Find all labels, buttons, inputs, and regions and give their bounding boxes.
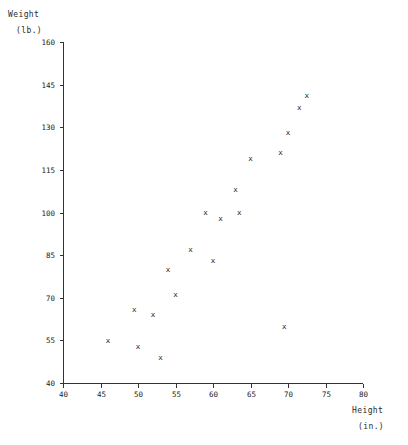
data-point-marker: x bbox=[165, 266, 172, 273]
data-point-marker: x bbox=[187, 246, 194, 253]
data-point-marker: x bbox=[285, 129, 292, 136]
axis-lines bbox=[64, 42, 364, 384]
y-tick-label: 130 bbox=[31, 123, 55, 132]
data-point-marker: x bbox=[131, 306, 138, 313]
data-point-marker: x bbox=[150, 311, 157, 318]
data-point-marker: x bbox=[202, 209, 209, 216]
data-point-marker: x bbox=[232, 186, 239, 193]
y-tick-label: 70 bbox=[31, 294, 55, 303]
y-tick-label: 160 bbox=[31, 38, 55, 47]
x-tick-label: 65 bbox=[242, 390, 262, 399]
y-tick-label: 55 bbox=[31, 336, 55, 345]
data-point-marker: x bbox=[247, 155, 254, 162]
x-tick-label: 40 bbox=[54, 390, 74, 399]
data-point-marker: x bbox=[303, 92, 310, 99]
data-point-marker: x bbox=[281, 323, 288, 330]
data-point-marker: x bbox=[236, 209, 243, 216]
data-point-marker: x bbox=[277, 149, 284, 156]
y-tick-label: 115 bbox=[31, 166, 55, 175]
x-tick-label: 60 bbox=[204, 390, 224, 399]
plot-axes bbox=[0, 0, 408, 445]
data-point-marker: x bbox=[296, 104, 303, 111]
data-point-marker: x bbox=[172, 291, 179, 298]
y-tick-label: 85 bbox=[31, 251, 55, 260]
y-tick-label: 145 bbox=[31, 81, 55, 90]
data-point-marker: x bbox=[135, 343, 142, 350]
x-tick-label: 70 bbox=[279, 390, 299, 399]
data-point-marker: x bbox=[157, 354, 164, 361]
y-tick-label: 40 bbox=[31, 379, 55, 388]
scatter-plot: Weight (lb.) Height (in.) 40557085100115… bbox=[0, 0, 408, 445]
y-tick-label: 100 bbox=[31, 209, 55, 218]
x-tick-label: 75 bbox=[317, 390, 337, 399]
x-tick-label: 55 bbox=[167, 390, 187, 399]
x-tick-label: 80 bbox=[354, 390, 374, 399]
x-tick-label: 50 bbox=[129, 390, 149, 399]
data-point-marker: x bbox=[217, 215, 224, 222]
data-point-marker: x bbox=[105, 337, 112, 344]
data-point-marker: x bbox=[210, 257, 217, 264]
x-tick-label: 45 bbox=[92, 390, 112, 399]
